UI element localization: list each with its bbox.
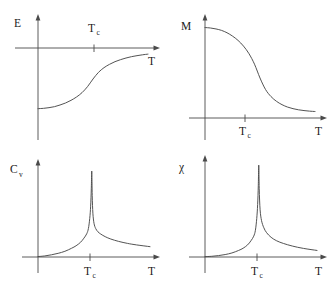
y-axis-arrowhead: [203, 14, 208, 21]
data-curve-heat-capacity: [38, 171, 150, 257]
y-axis-label-energy: E: [14, 17, 21, 29]
x-axis-label-temperature: T: [315, 265, 322, 277]
chart-svg-energy: E T c T: [0, 0, 166, 145]
chart-svg-magnetization: M T c T: [167, 0, 333, 145]
y-axis-arrowhead: [36, 159, 41, 166]
x-axis-arrowhead: [321, 116, 328, 121]
x-axis-label-temperature: T: [315, 125, 322, 137]
x-axis-arrowhead: [321, 255, 328, 260]
figure-critical-phenomena: E T c T M T c T C v: [0, 0, 333, 290]
x-axis-arrowhead: [154, 46, 161, 51]
chart-svg-heat-capacity: C v T c T: [0, 145, 166, 290]
chart-panel-energy: E T c T: [0, 0, 166, 145]
chart-panel-susceptibility: χ T c T: [167, 145, 333, 290]
critical-temperature-label: T: [84, 265, 91, 277]
y-axis-label-subscript: v: [19, 170, 23, 179]
x-axis-label-temperature: T: [148, 265, 155, 277]
critical-temperature-label: T: [88, 22, 95, 34]
y-axis-label-heat-capacity: C: [10, 163, 18, 175]
chart-panel-magnetization: M T c T: [167, 0, 333, 145]
x-axis-label-temperature: T: [148, 55, 155, 67]
critical-temperature-subscript: c: [97, 28, 101, 37]
critical-temperature-subscript: c: [260, 271, 264, 280]
data-curve-magnetization: [205, 28, 315, 112]
chart-svg-susceptibility: χ T c T: [167, 145, 333, 290]
critical-temperature-subscript: c: [93, 271, 97, 280]
critical-temperature-label: T: [251, 265, 258, 277]
y-axis-label-magnetization: M: [181, 20, 191, 32]
y-axis-label-susceptibility: χ: [178, 161, 185, 174]
chart-panel-heat-capacity: C v T c T: [0, 145, 166, 290]
y-axis-arrowhead: [203, 155, 208, 162]
x-axis-arrowhead: [154, 255, 161, 260]
data-curve-energy: [38, 54, 148, 109]
critical-temperature-subscript: c: [248, 131, 252, 140]
data-curve-susceptibility: [205, 165, 317, 257]
y-axis-arrowhead: [36, 14, 41, 21]
critical-temperature-label: T: [239, 125, 246, 137]
